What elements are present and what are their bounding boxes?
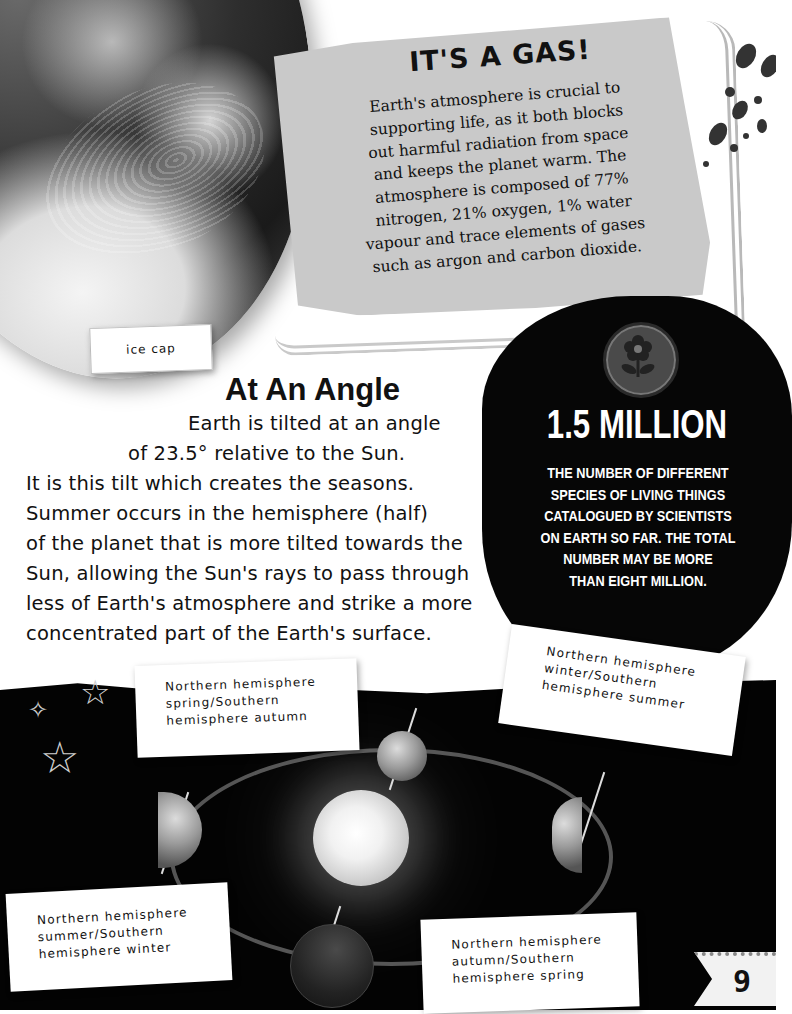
body-line: of the planet that is more tilted toward… [26, 532, 463, 555]
star-icon: ☆ [80, 672, 110, 712]
badge [603, 322, 679, 398]
stat-line: SPECIES OF LIVING THINGS [521, 484, 756, 506]
ice-cap-label: ice cap [89, 324, 213, 374]
body-line: It is this tilt which creates the season… [26, 472, 414, 495]
body-line: of 23.5° relative to the Sun. [128, 442, 405, 465]
stat-value: 1.5 MILLION [516, 402, 758, 447]
stat-line: ON EARTH SO FAR. THE TOTAL [521, 527, 756, 549]
body-line: Sun, allowing the Sun's rays to pass thr… [26, 562, 469, 585]
body-line: concentrated part of the Earth's surface… [26, 622, 432, 645]
flower-icon [606, 325, 670, 389]
star-icon: ☆ [40, 732, 79, 783]
season-label-autumn: Northern hemisphere autumn/Southern hemi… [420, 912, 639, 1013]
stat-line: THAN EIGHT MILLION. [521, 570, 756, 592]
season-label-spring: Northern hemisphere spring/Southern hemi… [134, 658, 359, 758]
stat-line: NUMBER MAY BE MORE [521, 548, 756, 570]
body-line: Earth is tilted at an angle [188, 412, 441, 435]
body-line: Summer occurs in the hemisphere (half) [26, 502, 428, 525]
section-title: At An Angle [225, 372, 400, 408]
body-line: less of Earth's atmosphere and strike a … [26, 592, 473, 615]
star-icon: ✧ [28, 696, 48, 724]
earth-autumn [290, 924, 374, 1008]
stat-description: THE NUMBER OF DIFFERENT SPECIES OF LIVIN… [521, 462, 756, 591]
gas-panel-body: Earth's atmosphere is crucial to support… [329, 73, 672, 281]
earth-spring [377, 731, 427, 781]
season-label-summer: Northern hemisphere summer/Southern hemi… [6, 882, 233, 991]
ink-splatter-icon [700, 40, 776, 190]
stat-line: CATALOGUED BY SCIENTISTS [521, 505, 756, 527]
stat-line: THE NUMBER OF DIFFERENT [521, 462, 756, 484]
sun [313, 790, 409, 886]
